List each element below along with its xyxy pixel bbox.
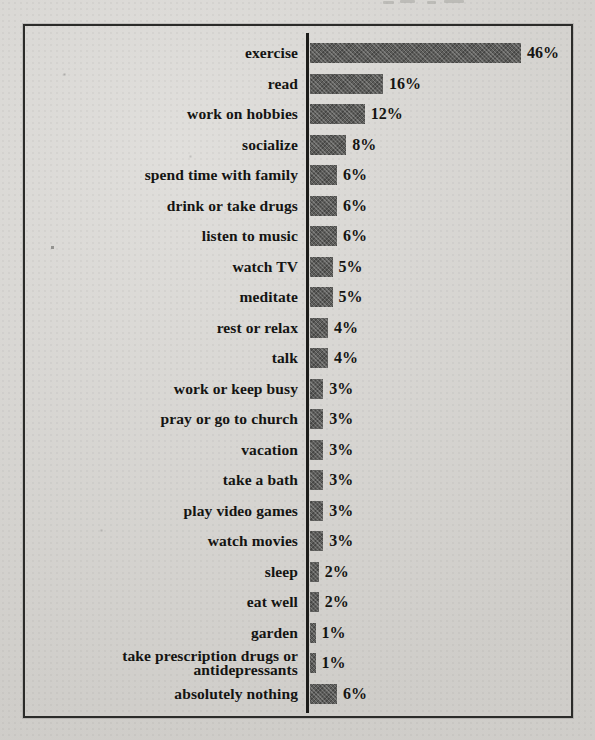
category-label: absolutely nothing — [25, 687, 306, 702]
bar — [310, 501, 324, 521]
value-label: 3% — [329, 502, 353, 520]
value-label: 1% — [322, 654, 346, 672]
bar — [310, 470, 324, 490]
text-remnant-mark — [383, 1, 394, 4]
bar — [310, 135, 347, 155]
category-label: work on hobbies — [25, 107, 306, 122]
value-label: 6% — [343, 197, 367, 215]
chart-row: talk4% — [25, 343, 571, 374]
bar — [310, 653, 316, 673]
bar — [310, 226, 338, 246]
category-label: take prescription drugs or antidepressan… — [25, 649, 306, 678]
chart-row: listen to music6% — [25, 221, 571, 252]
value-label: 1% — [322, 624, 346, 642]
category-label: work or keep busy — [25, 382, 306, 397]
chart-row: meditate5% — [25, 282, 571, 313]
chart-row: work on hobbies12% — [25, 99, 571, 130]
category-label: spend time with family — [25, 168, 306, 183]
value-label: 3% — [329, 471, 353, 489]
chart-row: rest or relax4% — [25, 313, 571, 344]
chart-row: socialize8% — [25, 130, 571, 161]
category-label: play video games — [25, 504, 306, 519]
chart-row: pray or go to church3% — [25, 404, 571, 435]
value-label: 3% — [329, 441, 353, 459]
chart-row: drink or take drugs6% — [25, 191, 571, 222]
value-label: 4% — [334, 319, 358, 337]
bar — [310, 379, 324, 399]
bar — [310, 165, 338, 185]
bar — [310, 562, 319, 582]
bar — [310, 104, 365, 124]
bar-rows: exercise46%read16%work on hobbies12%soci… — [25, 38, 571, 709]
text-remnant-mark — [444, 0, 464, 3]
value-label: 4% — [334, 349, 358, 367]
category-label: listen to music — [25, 229, 306, 244]
bar-chart-frame: exercise46%read16%work on hobbies12%soci… — [23, 24, 573, 718]
value-label: 12% — [371, 105, 403, 123]
value-label: 2% — [325, 593, 349, 611]
value-label: 16% — [389, 75, 421, 93]
bar — [310, 348, 328, 368]
bar — [310, 440, 324, 460]
bar — [310, 196, 338, 216]
category-label: talk — [25, 351, 306, 366]
bar — [310, 43, 522, 63]
chart-row: garden1% — [25, 618, 571, 649]
bar — [310, 409, 324, 429]
cropped-page-text-remnant — [380, 0, 490, 5]
category-label: drink or take drugs — [25, 199, 306, 214]
value-label: 6% — [343, 227, 367, 245]
text-remnant-mark — [400, 0, 415, 3]
category-label: take a bath — [25, 473, 306, 488]
chart-axis-line — [306, 33, 309, 713]
chart-row: take prescription drugs or antidepressan… — [25, 648, 571, 679]
bar — [310, 531, 324, 551]
value-label: 8% — [352, 136, 376, 154]
chart-row: eat well2% — [25, 587, 571, 618]
category-label: garden — [25, 626, 306, 641]
value-label: 46% — [527, 44, 559, 62]
category-label: meditate — [25, 290, 306, 305]
chart-row: exercise46% — [25, 38, 571, 69]
category-label: exercise — [25, 46, 306, 61]
text-remnant-mark — [427, 1, 436, 4]
bar — [310, 74, 384, 94]
category-label: watch movies — [25, 534, 306, 549]
value-label: 2% — [325, 563, 349, 581]
bar — [310, 257, 333, 277]
value-label: 6% — [343, 685, 367, 703]
chart-row: sleep2% — [25, 557, 571, 588]
category-label: watch TV — [25, 260, 306, 275]
chart-row: take a bath3% — [25, 465, 571, 496]
category-label: vacation — [25, 443, 306, 458]
category-label: eat well — [25, 595, 306, 610]
chart-row: spend time with family6% — [25, 160, 571, 191]
category-label: pray or go to church — [25, 412, 306, 427]
chart-row: watch movies3% — [25, 526, 571, 557]
chart-row: absolutely nothing6% — [25, 679, 571, 710]
scanned-page: { "page": { "background_color": "#d6d4d0… — [0, 0, 595, 740]
chart-row: vacation3% — [25, 435, 571, 466]
value-label: 5% — [339, 258, 363, 276]
category-label: rest or relax — [25, 321, 306, 336]
value-label: 5% — [339, 288, 363, 306]
scan-speckles — [0, 0, 1, 1]
chart-row: work or keep busy3% — [25, 374, 571, 405]
bar — [310, 684, 338, 704]
chart-row: read16% — [25, 69, 571, 100]
chart-row: watch TV5% — [25, 252, 571, 283]
bar — [310, 623, 316, 643]
bar — [310, 287, 333, 307]
value-label: 6% — [343, 166, 367, 184]
category-label: sleep — [25, 565, 306, 580]
category-label: socialize — [25, 138, 306, 153]
chart-row: play video games3% — [25, 496, 571, 527]
value-label: 3% — [329, 532, 353, 550]
bar — [310, 318, 328, 338]
bar — [310, 592, 319, 612]
value-label: 3% — [329, 380, 353, 398]
category-label: read — [25, 77, 306, 92]
value-label: 3% — [329, 410, 353, 428]
